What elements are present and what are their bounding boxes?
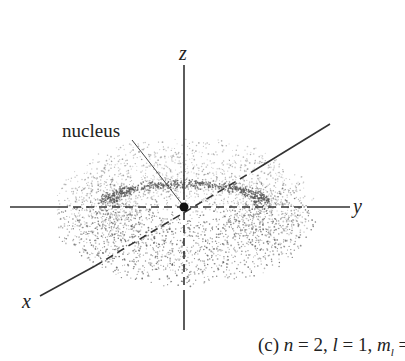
z-axis-label: z	[179, 42, 187, 65]
nucleus-pointer	[132, 140, 182, 204]
nucleus-dot	[180, 203, 189, 212]
x-axis-label: x	[22, 290, 31, 313]
figure-caption: (c) n = 2, l = 1, ml = ±1	[258, 334, 405, 358]
y-axis-label: y	[353, 195, 362, 218]
nucleus-label: nucleus	[62, 120, 120, 142]
orbital-diagram	[0, 0, 405, 361]
